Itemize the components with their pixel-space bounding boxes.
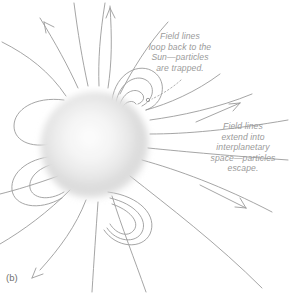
figure-caption: (b) (6, 272, 18, 283)
sun-sphere (41, 92, 149, 200)
closed-loop-bottom-right-inner (110, 204, 136, 234)
field-line-lower-right-long (130, 176, 262, 288)
field-line-bottom-arrowed (40, 200, 86, 270)
field-line-right-upper (146, 74, 220, 110)
annotation-field-lines-trapped: Field lines loop back to the Sun—particl… (133, 31, 227, 73)
closed-loop-bottom-right-outer (104, 192, 152, 245)
field-line-top-vertical (99, 3, 105, 86)
annotation-field-lines-escape: Field lines extend into interplanetary s… (200, 121, 286, 174)
callout-leader-line (146, 80, 181, 102)
magnetic-field-figure: Field lines loop back to the Sun—particl… (0, 0, 289, 295)
field-line-upper-left-arrowed (40, 18, 78, 88)
field-line-left-lower (0, 176, 58, 194)
field-line-bottom-right (112, 196, 146, 292)
field-line-bottom-center (92, 202, 98, 292)
field-line-lower-left (0, 190, 70, 244)
field-line-upper-left-inner (74, 3, 88, 86)
arrowhead-bottom-left (32, 268, 43, 278)
field-line-upper-left-outer (2, 42, 66, 96)
field-line-top-arrowed (108, 6, 111, 88)
